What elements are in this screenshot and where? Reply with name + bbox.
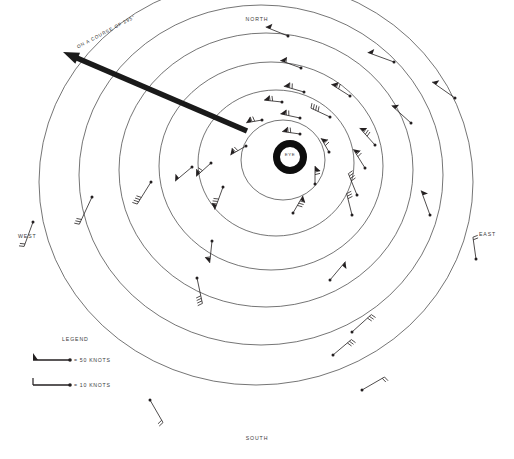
- station-dot: [328, 151, 331, 154]
- station-dot: [454, 97, 457, 100]
- legend-title: LEGEND: [62, 336, 89, 342]
- station-dot: [32, 221, 35, 224]
- station-dot: [429, 214, 432, 217]
- station-dot: [410, 122, 413, 125]
- station-dot: [211, 240, 214, 243]
- station-dot: [299, 117, 302, 120]
- hurricane-wind-field-diagram: [0, 0, 514, 459]
- station-dot: [356, 194, 359, 197]
- station-dot: [300, 67, 303, 70]
- station-dot: [261, 119, 264, 122]
- station-dot: [191, 166, 194, 169]
- station-dot: [475, 258, 478, 261]
- station-dot: [374, 144, 377, 147]
- canvas-background: [0, 0, 514, 459]
- station-dot: [287, 35, 290, 38]
- station-dot: [210, 162, 213, 165]
- station-dot: [245, 145, 248, 148]
- station-dot: [281, 101, 284, 104]
- station-dot: [351, 331, 354, 334]
- station-dot: [329, 279, 332, 282]
- station-dot: [329, 116, 332, 119]
- station-dot: [361, 389, 364, 392]
- legend-item-50-knots-label: = 50 KNOTS: [74, 357, 111, 363]
- legend-item-10-knots-label: = 10 KNOTS: [74, 382, 111, 388]
- station-dot: [364, 167, 367, 170]
- station-dot: [222, 186, 225, 189]
- station-dot: [150, 181, 153, 184]
- station-dot: [393, 61, 396, 64]
- station-dot: [292, 212, 295, 215]
- station-dot: [303, 91, 306, 94]
- station-dot: [349, 95, 352, 98]
- cardinal-label-south: SOUTH: [0, 435, 514, 441]
- legend-50kt-dot: [68, 358, 72, 362]
- station-dot: [149, 399, 152, 402]
- legend-10kt-dot: [68, 383, 72, 387]
- cardinal-label-north: NORTH: [0, 16, 514, 22]
- cardinal-label-west: WEST: [18, 233, 37, 239]
- station-dot: [314, 183, 317, 186]
- station-dot: [91, 196, 94, 199]
- station-dot: [299, 133, 302, 136]
- cardinal-label-east: EAST: [479, 231, 496, 237]
- eye-label: EYE: [275, 152, 305, 157]
- station-dot: [196, 277, 199, 280]
- station-dot: [332, 354, 335, 357]
- station-dot: [351, 214, 354, 217]
